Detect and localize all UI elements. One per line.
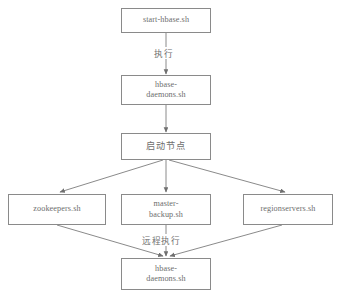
node-start-node[interactable]: 启动节点 [121,133,211,160]
node-master-backup[interactable]: master- backup.sh [121,194,211,225]
node-hbase-daemons-bottom[interactable]: hbase- daemons.sh [121,258,211,290]
node-start-node-label: 启动节点 [146,141,187,152]
node-master-backup-label: master- backup.sh [149,199,183,220]
flowchart-canvas: start-hbase.sh hbase- daemons.sh 启动节点 zo… [0,0,341,295]
node-zookeepers-label: zookeepers.sh [33,204,80,215]
node-start-hbase-label: start-hbase.sh [143,15,189,26]
node-regionservers[interactable]: regionservers.sh [243,194,333,225]
edge-start-node-to-regionservers [169,160,285,192]
edge-start-node-to-zookeepers [60,160,163,192]
edge-regionservers-to-daemons [170,225,282,256]
node-regionservers-label: regionservers.sh [260,204,315,215]
node-start-hbase[interactable]: start-hbase.sh [121,8,211,33]
node-hbase-daemons-bottom-label: hbase- daemons.sh [146,264,185,285]
node-hbase-daemons-top-label: hbase- daemons.sh [146,80,185,101]
edge-label-execute: 执行 [152,47,175,59]
node-zookeepers[interactable]: zookeepers.sh [8,194,106,225]
node-hbase-daemons-top[interactable]: hbase- daemons.sh [121,75,211,105]
edge-label-remote-execute: 远程执行 [140,234,182,246]
